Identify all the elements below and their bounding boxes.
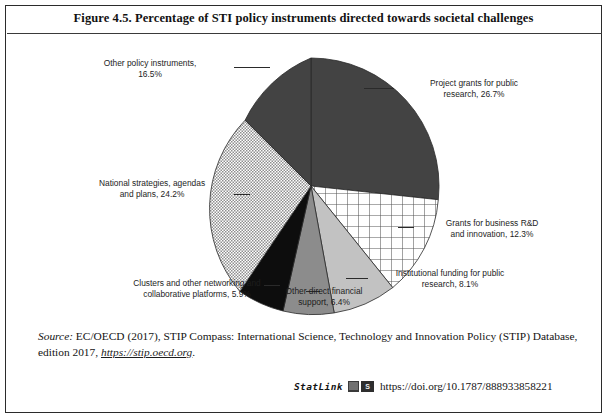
slice-label-other-policy-instruments: Other policy instruments, 16.5% — [66, 58, 234, 79]
source-text-tail: . — [192, 346, 195, 358]
excel-sims-badge-icon: S — [348, 381, 374, 392]
source-note: Source: EC/OECD (2017), STIP Compass: In… — [38, 328, 578, 360]
figure-container: Figure 4.5. Percentage of STI policy ins… — [5, 5, 602, 413]
leader-line-project-grants — [364, 88, 394, 89]
slice-label-business-rd: Grants for business R&D and innovation, … — [412, 218, 572, 239]
statlink-doi[interactable]: https://doi.org/10.1787/888933858221 — [380, 380, 553, 392]
source-link[interactable]: https://stip.oecd.org — [101, 346, 192, 358]
slice-label-institutional-funding: Institutional funding for public researc… — [366, 268, 534, 289]
slice-label-other-direct-financial: Other direct financial support, 6.4% — [265, 286, 383, 307]
leader-line-other-policy — [234, 67, 270, 68]
leader-line-national-strategies — [234, 194, 250, 195]
svg-text:S: S — [365, 383, 370, 390]
slice-label-project-grants: Project grants for public research, 26.7… — [394, 78, 554, 99]
pie-chart: Other policy instruments, 16.5% Project … — [6, 6, 603, 316]
leader-line-institutional — [346, 278, 368, 279]
statlink-label: StatLink — [294, 381, 343, 392]
source-label: Source: — [38, 330, 73, 342]
statlink-row: StatLink S https://doi.org/10.1787/88893… — [294, 378, 553, 394]
slice-label-clusters: Clusters and other networking and collab… — [116, 278, 278, 299]
slice-label-national-strategies: National strategies, agendas and plans, … — [68, 178, 236, 199]
